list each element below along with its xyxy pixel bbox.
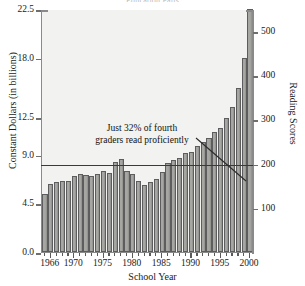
bar xyxy=(72,176,77,252)
right-axis-line xyxy=(252,10,254,254)
x-axis-title: School Year xyxy=(0,271,305,282)
x-axis-tick xyxy=(149,253,150,256)
reading-score-line xyxy=(41,165,253,166)
y-axis-tick-label-left: 22.5 xyxy=(17,4,34,14)
x-axis-tick xyxy=(79,253,80,256)
x-axis-tick xyxy=(91,253,92,256)
bar xyxy=(218,128,223,252)
bar xyxy=(230,107,235,252)
x-axis-tick xyxy=(226,253,227,256)
x-axis-tick xyxy=(114,253,115,256)
x-axis-tick xyxy=(167,253,168,256)
left-axis-cap xyxy=(41,10,48,12)
bar xyxy=(165,163,170,252)
x-axis-tick xyxy=(120,253,121,256)
bar xyxy=(89,176,94,252)
x-axis-tick xyxy=(155,253,156,256)
x-axis-tick xyxy=(185,253,186,256)
x-axis-tick xyxy=(237,253,238,256)
bar xyxy=(201,142,206,252)
bar xyxy=(136,181,141,252)
bar xyxy=(66,181,71,252)
x-axis-tick xyxy=(67,253,68,256)
bar xyxy=(119,159,124,252)
x-axis-tick xyxy=(126,253,127,256)
bar xyxy=(124,171,129,252)
y-axis-tick-label-left: 4.5 xyxy=(22,198,34,208)
x-axis-tick xyxy=(208,253,209,256)
bar xyxy=(95,174,100,252)
y-axis-tick-right xyxy=(253,120,258,122)
y-axis-tick-label-left: 18.0 xyxy=(17,53,34,63)
bar xyxy=(189,152,194,252)
bar xyxy=(171,160,176,252)
bar xyxy=(154,179,159,252)
bar xyxy=(206,138,211,252)
bar xyxy=(183,153,188,252)
bar xyxy=(242,58,247,252)
y-axis-tick-left xyxy=(36,118,41,120)
bar xyxy=(212,132,217,252)
x-axis-tick-label: 2000 xyxy=(232,258,266,268)
bar xyxy=(107,173,112,252)
y-axis-tick-left xyxy=(36,204,41,206)
x-axis-tick xyxy=(173,253,174,256)
x-axis-tick xyxy=(243,253,244,256)
bar xyxy=(54,182,59,252)
x-axis-tick xyxy=(144,253,145,256)
y-axis-tick-label-left: 9.0 xyxy=(22,150,34,160)
x-axis-tick xyxy=(97,253,98,256)
bar xyxy=(148,182,153,252)
bar xyxy=(224,118,229,252)
bar xyxy=(60,181,65,252)
x-axis-tick xyxy=(62,253,63,256)
bar xyxy=(130,174,135,252)
y-axis-tick-label-left: 0.0 xyxy=(22,247,34,257)
x-axis-tick xyxy=(196,253,197,256)
x-axis-tick xyxy=(214,253,215,256)
y-axis-tick-right xyxy=(253,165,258,167)
y-axis-tick-label-left: 12.5 xyxy=(17,112,34,122)
y-axis-tick-left xyxy=(36,156,41,158)
bar xyxy=(142,185,147,252)
y-axis-tick-label-right: 500 xyxy=(261,26,275,36)
x-axis-tick xyxy=(56,253,57,256)
y-axis-tick-left xyxy=(36,10,41,12)
y-axis-tick-right xyxy=(253,32,258,34)
y-axis-tick-right xyxy=(253,209,258,211)
x-axis-tick xyxy=(231,253,232,256)
y-axis-tick-label-right: 100 xyxy=(261,203,275,213)
bar xyxy=(113,162,118,252)
bar xyxy=(83,175,88,252)
bar xyxy=(101,171,106,252)
y-axis-tick-label-right: 300 xyxy=(261,114,275,124)
bar xyxy=(195,146,200,252)
y-axis-tick-label-right: 400 xyxy=(261,70,275,80)
bar xyxy=(177,158,182,252)
annotation-line-1: Just 32% of fourth xyxy=(74,122,210,134)
y-axis-tick-label-right: 200 xyxy=(261,159,275,169)
right-axis-cap xyxy=(246,10,253,12)
chart-root: Education Fails 0.04.59.012.518.022.5 10… xyxy=(0,0,305,286)
y-axis-title-right: Reading Scores xyxy=(288,44,299,184)
x-axis-tick xyxy=(138,253,139,256)
y-axis-tick-right xyxy=(253,76,258,78)
bar xyxy=(42,194,47,252)
y-axis-title-left: Constant Dollars (in billions) xyxy=(7,41,18,181)
x-axis-tick xyxy=(179,253,180,256)
x-axis-tick xyxy=(202,253,203,256)
x-axis-tick xyxy=(85,253,86,256)
x-axis-tick xyxy=(108,253,109,256)
x-axis-tick xyxy=(44,253,45,256)
annotation-line-2: graders read proficiently xyxy=(74,134,210,146)
y-axis-tick-left xyxy=(36,253,41,255)
bar xyxy=(48,184,53,252)
bar xyxy=(160,172,165,252)
bar xyxy=(236,88,241,252)
y-axis-tick-left xyxy=(36,59,41,61)
annotation-text: Just 32% of fourth graders read proficie… xyxy=(74,122,210,146)
chart-title: Education Fails xyxy=(0,0,305,2)
bar xyxy=(78,174,83,252)
